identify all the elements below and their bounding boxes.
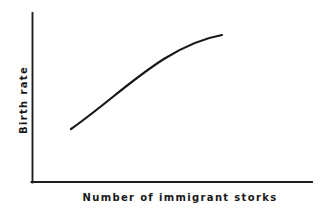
- chart-figure: Birth rate Number of immigrant storks: [0, 0, 326, 212]
- x-axis-label: Number of immigrant storks: [0, 193, 326, 203]
- y-axis-label: Birth rate: [19, 66, 29, 134]
- data-curve-birth-rate: [71, 35, 222, 129]
- plot-area: [0, 0, 326, 212]
